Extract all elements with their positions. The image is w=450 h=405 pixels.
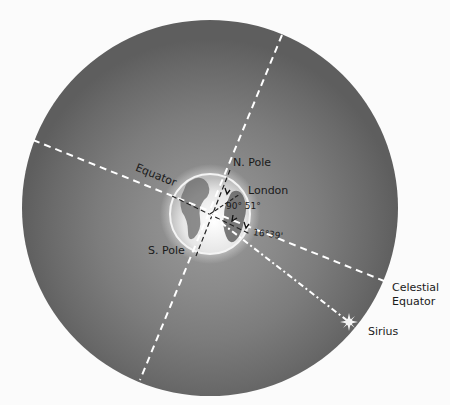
south-pole-label: S. Pole	[148, 245, 185, 256]
london-label: London	[248, 185, 288, 196]
diagram-graphic	[0, 0, 450, 405]
celestial-sphere-diagram: N. Pole London 90° 51° 16°39' Equator S.…	[0, 0, 450, 405]
london-angle-label: 90° 51°	[226, 202, 261, 211]
sirius-label: Sirius	[368, 326, 398, 337]
north-pole-label: N. Pole	[233, 157, 271, 168]
celestial-equator-label-line1: Celestial	[392, 282, 439, 293]
celestial-equator-label-line2: Equator	[392, 296, 435, 307]
